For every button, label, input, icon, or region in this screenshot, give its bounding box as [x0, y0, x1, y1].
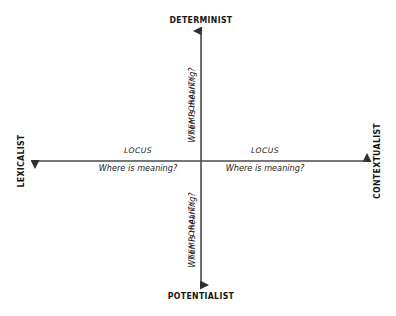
quadrant-title-locus-right: LOCUS	[251, 147, 279, 155]
pole-label-lexicalist: LEXICALIST	[17, 135, 25, 188]
quadrant-question-locus-left: Where is meaning?	[99, 164, 178, 172]
pole-label-contextualist: CONTEXTUALIST	[373, 123, 381, 199]
axis-lines	[0, 0, 396, 316]
quadrant-title-locus-left: LOCUS	[124, 147, 152, 155]
quadrant-label-locus-left: LOCUS Where is meaning?	[99, 147, 178, 172]
quadrant-label-temporality-lower: TEMPORALITY When is meaning?	[188, 201, 205, 259]
axes-diagram: DETERMINIST POTENTIALIST LEXICALIST CONT…	[0, 0, 396, 316]
quadrant-question-temporality-lower: When is meaning?	[188, 192, 196, 267]
pole-label-determinist: DETERMINIST	[170, 16, 233, 24]
quadrant-question-temporality-upper: When is meaning?	[188, 67, 196, 142]
quadrant-label-locus-right: LOCUS Where is meaning?	[226, 147, 305, 172]
quadrant-question-locus-right: Where is meaning?	[226, 164, 305, 172]
pole-label-potentialist: POTENTIALIST	[168, 292, 234, 300]
quadrant-label-temporality-upper: TEMPORALITY When is meaning?	[188, 76, 205, 134]
